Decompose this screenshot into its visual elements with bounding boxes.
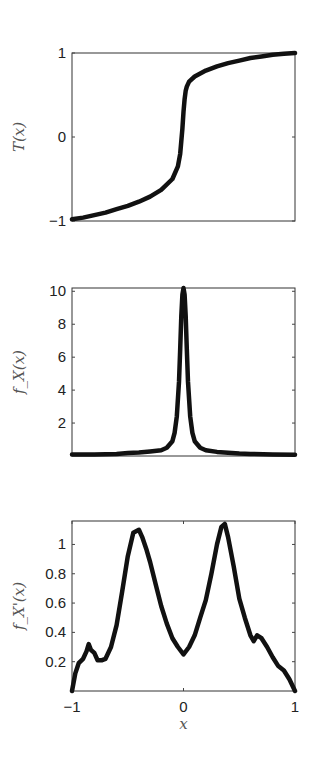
y-tick-label: 1 <box>58 44 66 61</box>
y-tick-label: 0.6 <box>45 594 66 611</box>
y-axis-label: T(x) <box>10 122 28 152</box>
y-tick-label: 6 <box>58 348 66 365</box>
y-axis-label: f_X'(x) <box>10 582 28 631</box>
y-tick-label: 1 <box>58 535 66 552</box>
panel-input-density: 246810 f_X(x) <box>10 282 295 456</box>
panel-transfer-function: −101 T(x) <box>10 44 295 229</box>
x-tick-label: −1 <box>63 698 80 715</box>
figure: −101 T(x) 246810 f_X(x) 0.20.40.60.81 −1… <box>0 0 318 763</box>
x-ticks: −101 <box>63 521 299 715</box>
y-axis-label: f_X(x) <box>10 350 28 395</box>
y-tick-label: −1 <box>49 212 66 229</box>
y-tick-label: 0.8 <box>45 565 66 582</box>
panel-output-density: 0.20.40.60.81 −101 f_X'(x) x <box>10 521 299 733</box>
y-tick-label: 10 <box>49 282 66 299</box>
axes-frame <box>72 521 295 691</box>
x-axis-label: x <box>179 715 188 733</box>
y-ticks: 0.20.40.60.81 <box>45 535 295 669</box>
y-tick-label: 0 <box>58 128 66 145</box>
y-tick-label: 0.4 <box>45 623 66 640</box>
data-curve <box>72 53 295 219</box>
y-tick-label: 2 <box>58 414 66 431</box>
data-curve <box>72 524 295 691</box>
y-ticks: −101 <box>49 44 295 229</box>
data-curve <box>72 288 295 455</box>
y-tick-label: 4 <box>58 381 66 398</box>
y-tick-label: 0.2 <box>45 653 66 670</box>
y-ticks: 246810 <box>49 282 295 431</box>
x-tick-label: 0 <box>179 698 187 715</box>
y-tick-label: 8 <box>58 315 66 332</box>
x-tick-label: 1 <box>291 698 299 715</box>
